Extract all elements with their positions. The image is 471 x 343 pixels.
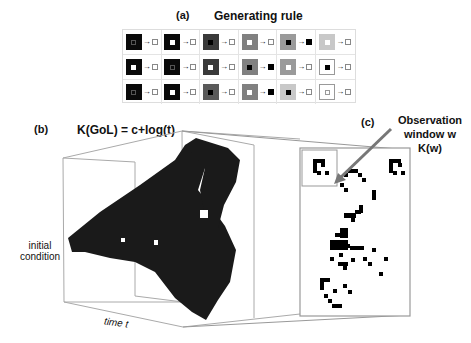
annotation-line2: window w <box>390 127 470 141</box>
annotation-line1: Observation <box>390 113 470 127</box>
spacetime-diagram <box>0 0 471 343</box>
panel-c-label: (c) <box>361 116 374 128</box>
annotation-line3: K(w) <box>390 141 470 155</box>
observation-annotation: Observation window w K(w) <box>390 113 470 155</box>
cube-structure <box>68 138 240 320</box>
